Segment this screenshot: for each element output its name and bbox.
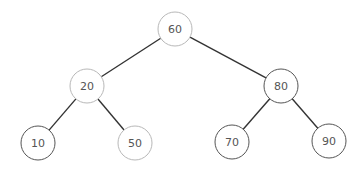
tree-node-80: 80: [264, 69, 298, 103]
node-label: 80: [274, 80, 288, 93]
edge-80-70: [243, 99, 270, 129]
node-label: 20: [80, 80, 94, 93]
tree-node-10: 10: [21, 126, 55, 160]
node-label: 10: [31, 137, 45, 150]
nodes-layer: 60208010507090: [21, 12, 346, 160]
edge-20-50: [98, 99, 124, 130]
node-label: 60: [168, 23, 182, 36]
node-label: 70: [225, 136, 239, 149]
tree-node-20: 20: [70, 69, 104, 103]
tree-node-60: 60: [158, 12, 192, 46]
binary-tree-diagram: 60208010507090: [0, 0, 364, 179]
tree-node-50: 50: [118, 126, 152, 160]
edge-20-10: [49, 99, 76, 130]
tree-node-70: 70: [215, 125, 249, 159]
edge-80-90: [292, 99, 318, 128]
node-label: 50: [128, 137, 142, 150]
tree-node-90: 90: [312, 124, 346, 158]
edge-60-20: [101, 38, 160, 77]
edge-60-80: [190, 37, 266, 78]
node-label: 90: [322, 135, 336, 148]
